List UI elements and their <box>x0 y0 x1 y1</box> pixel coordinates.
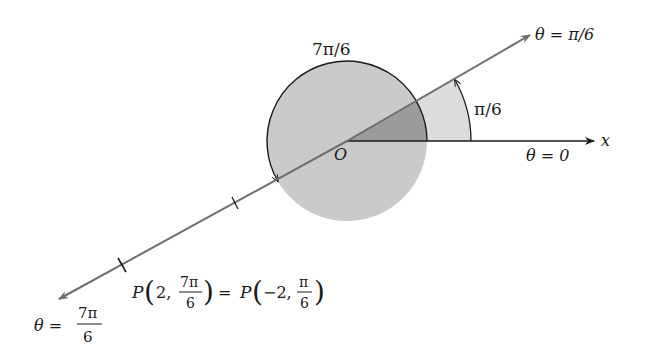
svg-text:7π: 7π <box>180 274 198 290</box>
label-arc-7pi6: 7π/6 <box>312 39 351 59</box>
svg-text:P: P <box>131 282 144 302</box>
polar-diagram: O x θ = π/6 θ = 0 7π/6 π/6 θ = 7π 6 P ( … <box>0 0 649 363</box>
svg-text:): ) <box>203 275 214 308</box>
origin-label: O <box>334 145 347 164</box>
svg-text:7π: 7π <box>78 304 98 322</box>
svg-text:P: P <box>239 282 252 302</box>
label-arc-pi6: π/6 <box>474 99 502 119</box>
label-theta-zero: θ = 0 <box>526 146 569 165</box>
svg-text:π: π <box>299 274 308 290</box>
svg-text:6: 6 <box>300 295 309 311</box>
svg-text:6: 6 <box>83 328 93 346</box>
label-theta-7pi6: θ = 7π 6 <box>34 304 102 346</box>
svg-text:6: 6 <box>186 295 195 311</box>
svg-text:(: ( <box>144 275 155 308</box>
x-axis-label: x <box>601 131 610 150</box>
svg-text:(: ( <box>252 275 263 308</box>
label-point-P: P ( 2, 7π 6 ) = P ( −2, π 6 ) <box>131 274 325 311</box>
svg-text:−2,: −2, <box>263 283 292 302</box>
svg-text:2,: 2, <box>156 283 171 302</box>
svg-text:θ =: θ = <box>34 316 62 335</box>
label-theta-pi6: θ = π/6 <box>535 25 594 44</box>
svg-text:=: = <box>218 283 231 302</box>
svg-text:): ) <box>314 275 325 308</box>
